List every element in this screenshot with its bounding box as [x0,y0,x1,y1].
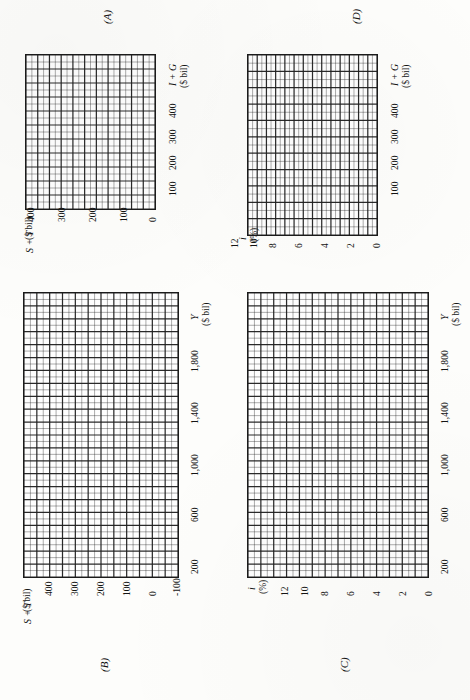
panel-d-label: (D) [350,9,362,24]
panel-c-ytick-5: 10 [300,586,310,596]
panel-d-xtick-1: 200 [390,155,400,170]
panel-a-grid [25,54,156,210]
panel-a-gridlines [26,55,155,209]
panel-b-ytick-5: 400 [44,581,54,596]
panel-d-x-axis-title: I + G [389,64,400,86]
panel-c-x-axis-unit: ($ bil) [451,303,461,326]
panel-a-ytick-3: 300 [57,207,67,222]
panel-b-xtick-1: 600 [190,507,200,522]
panel-b-xtick-3: 1,400 [190,402,200,424]
panel-d-grid [247,54,378,236]
scanned-worksheet-page: 100 200 300 400 I + G ($ bil) 0 100 200 … [0,0,470,700]
panel-d-xtick-3: 400 [390,103,400,118]
panel-c-label: (C) [338,657,350,672]
panel-c-ytick-0: 0 [424,591,434,596]
panel-d-y-axis-unit: (%) [249,228,259,242]
panel-d-ytick-0: 0 [372,243,382,248]
panel-b-y-axis-unit: ($ bil) [22,589,32,612]
panel-d-ytick-3: 6 [294,243,304,248]
panel-d-ytick-2: 4 [320,243,330,248]
panel-a-xtick-3: 400 [168,103,178,118]
panel-d-x-axis-unit: ($ bil) [401,65,411,88]
panel-c-xtick-2: 1,000 [440,454,450,476]
panel-c-gridlines [248,293,428,577]
panel-c-ytick-3: 6 [346,591,356,596]
panel-b-x-axis-title: Y [189,314,200,320]
panel-c-x-axis-title: Y [439,314,450,320]
panel-c-ytick-4: 8 [320,591,330,596]
panel-a-x-axis-title: I + G [167,64,178,86]
panel-d-xtick-2: 300 [390,129,400,144]
panel-b-x-axis-unit: ($ bil) [201,303,211,326]
panel-c-ytick-6: 12 [280,586,290,596]
panel-a-ytick-1: 100 [119,207,129,222]
panel-a-x-axis-unit: ($ bil) [179,65,189,88]
panel-c-ytick-2: 4 [372,591,382,596]
panel-b-xtick-0: 200 [190,559,200,574]
panel-b-grid [23,292,179,578]
panel-a-xtick-2: 300 [168,129,178,144]
panel-a-ytick-2: 200 [88,207,98,222]
panel-c-xtick-4: 1,800 [440,350,450,372]
panel-a-ytick-0: 0 [148,217,158,222]
panel-c-y-axis-unit: (%) [258,580,268,594]
panel-c-xtick-1: 600 [440,507,450,522]
panel-b-ytick-3: 200 [96,581,106,596]
panel-b-label: (B) [98,658,110,672]
panel-a-label: (A) [101,10,113,24]
panel-c-xtick-0: 200 [440,559,450,574]
panel-b-ytick-1: 0 [148,591,158,596]
panel-b-xtick-2: 1,000 [190,454,200,476]
panel-a-y-axis-unit: ($ bil) [24,217,34,240]
panel-b-gridlines [24,293,178,577]
panel-b-ytick-4: 300 [70,581,80,596]
panel-d-gridlines [248,55,377,235]
panel-d-y-axis-title: i [237,237,248,240]
panel-b-ytick-2: 100 [122,581,132,596]
panel-d-ytick-4: 8 [268,243,278,248]
panel-a-xtick-0: 100 [168,181,178,196]
panel-b-xtick-4: 1,800 [190,350,200,372]
panel-c-y-axis-title: i [246,587,257,590]
panel-d-ytick-1: 2 [346,243,356,248]
panel-c-ytick-1: 2 [398,591,408,596]
panel-a-xtick-1: 200 [168,155,178,170]
panel-d-xtick-0: 100 [390,181,400,196]
panel-c-xtick-3: 1,400 [440,402,450,424]
panel-c-grid [247,292,429,578]
panel-b-ytick-0: -100 [172,578,182,596]
